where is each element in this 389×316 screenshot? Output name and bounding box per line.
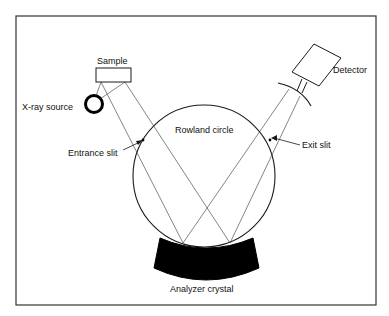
xray-source-ring [86,96,103,113]
sample-label: Sample [97,56,128,66]
entrance-slit-label: Entrance slit [68,148,118,158]
analyzer-crystal [154,238,259,280]
ray [230,96,300,243]
entrance-slit-point [142,139,145,142]
ray [100,82,125,99]
exit-slit-arrow [274,138,300,145]
xray-source-label: X-ray source [22,102,73,112]
detector-neck [302,82,307,93]
sample-box [96,68,131,82]
rowland-spectrometer-diagram: Sample X-ray source Detector Rowland cir… [0,0,389,316]
ray [101,82,183,243]
detector-neck [297,79,302,91]
detector-label: Detector [333,65,367,75]
exit-slit-label: Exit slit [302,140,331,150]
analyzer-crystal-label: Analyzer crystal [170,284,234,294]
arrowhead-icon [271,135,277,141]
rowland-circle-label: Rowland circle [175,125,234,135]
ray [96,82,101,96]
detector-window-arc [278,83,311,106]
exit-slit-point [269,139,272,142]
